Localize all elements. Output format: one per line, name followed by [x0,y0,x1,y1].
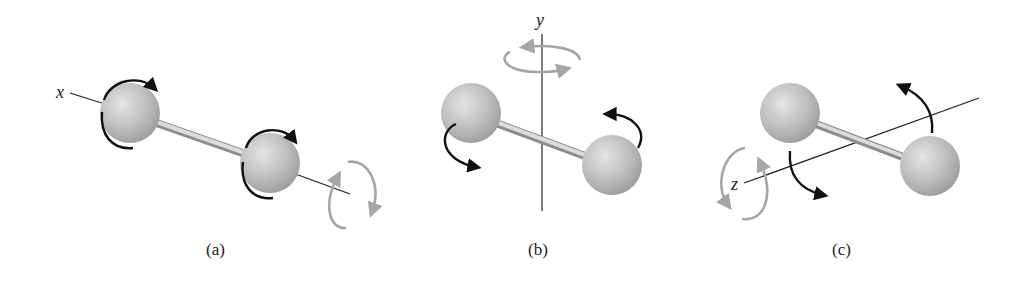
rotation-indicator-icon [525,46,580,60]
bond [488,119,585,156]
atom-right [582,135,642,195]
rotation-arrow-icon [901,86,932,133]
panel-a: x (a) [55,80,375,259]
atom-left [760,83,820,143]
x-axis-line [70,93,105,104]
rotation-indicator-icon [742,162,767,219]
atom-left [441,83,501,143]
atom-right [900,136,960,196]
rotation-indicator-icon [505,52,566,72]
panel-b: y (b) [441,10,642,259]
rotation-indicator-icon [329,176,346,228]
z-axis-label: z [730,174,738,194]
caption-a: (a) [206,240,225,259]
caption-b: (b) [528,240,548,259]
y-axis-label: y [534,10,544,30]
caption-c: (c) [832,240,851,259]
rotation-indicator-icon [348,162,375,212]
figure-canvas: x (a) y [0,0,1028,286]
bond [148,119,248,155]
x-axis-label: x [55,82,64,102]
panel-c: z (c) [721,83,979,259]
bond [808,120,903,157]
rotation-arrow-icon [790,151,823,195]
x-axis-line-end [290,172,350,194]
